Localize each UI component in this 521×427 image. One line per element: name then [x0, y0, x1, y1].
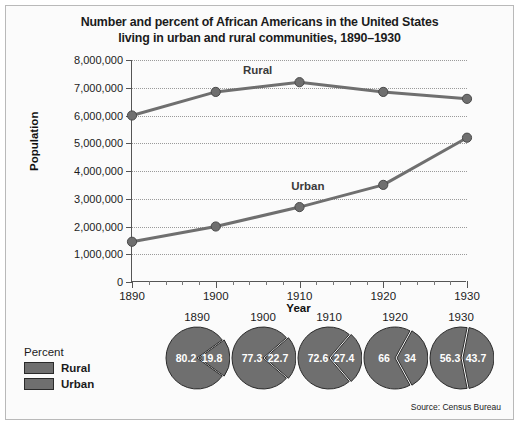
y-axis-tick-label: 5,000,000: [74, 137, 123, 149]
y-axis-tick-label: 2,000,000: [74, 221, 123, 233]
data-point-rural: [295, 78, 304, 87]
data-point-urban: [295, 202, 304, 211]
x-axis-tick-label: 1910: [287, 290, 313, 302]
legend: Percent Rural Urban: [24, 346, 94, 394]
data-point-rural: [462, 94, 471, 103]
x-axis-tick-label: 1930: [454, 290, 480, 302]
x-axis-tick-major: [467, 281, 468, 288]
pie-year-label: 1930: [415, 311, 507, 323]
figure-title-line2: living in urban and rural communities, 1…: [6, 30, 513, 46]
x-axis-tick-label: 1900: [203, 290, 229, 302]
x-axis-tick-label: 1890: [119, 290, 145, 302]
source-note: Source: Census Bureau: [411, 402, 501, 412]
legend-item-urban: Urban: [24, 378, 94, 390]
pie-chart-1930: 193056.343.7: [415, 311, 507, 391]
figure-title: Number and percent of African Americans …: [6, 14, 513, 46]
series-label-urban: Urban: [291, 180, 324, 192]
legend-swatch-urban: [24, 378, 54, 390]
y-axis-title: Population: [28, 112, 40, 171]
legend-swatch-rural: [24, 362, 54, 374]
pie-label-rural: 77.3: [242, 352, 262, 364]
y-axis-tick-label: 7,000,000: [74, 82, 123, 94]
data-point-rural: [211, 87, 220, 96]
legend-title: Percent: [24, 346, 94, 358]
figure-panel: Number and percent of African Americans …: [5, 5, 514, 420]
line-chart-plot-area: 01,000,0002,000,0003,000,0004,000,0005,0…: [131, 60, 466, 282]
x-axis-tick-major: [300, 281, 301, 288]
data-point-rural: [127, 111, 136, 120]
data-point-rural: [379, 87, 388, 96]
legend-label-rural: Rural: [61, 362, 90, 374]
series-label-rural: Rural: [243, 64, 272, 76]
pie-label-rural: 80.2: [176, 352, 196, 364]
x-axis-tick-major: [383, 281, 384, 288]
x-axis-tick-major: [132, 281, 133, 288]
y-axis-tick-label: 3,000,000: [74, 193, 123, 205]
x-axis-tick-label: 1920: [370, 290, 396, 302]
data-point-urban: [379, 180, 388, 189]
data-point-urban: [127, 237, 136, 246]
pie-label-rural: 66: [378, 352, 390, 364]
y-axis-tick-label: 4,000,000: [74, 165, 123, 177]
pie-label-urban: 43.7: [466, 352, 486, 364]
y-axis-tick-label: 0: [117, 276, 123, 288]
pie-graphic: 56.343.7: [428, 325, 494, 391]
x-axis-tick-major: [216, 281, 217, 288]
figure-title-line1: Number and percent of African Americans …: [6, 14, 513, 30]
y-axis-tick-label: 6,000,000: [74, 110, 123, 122]
pie-label-rural: 72.6: [308, 352, 328, 364]
data-point-urban: [211, 222, 220, 231]
legend-label-urban: Urban: [61, 378, 94, 390]
line-series-layer: [132, 60, 467, 282]
pie-label-rural: 56.3: [440, 352, 460, 364]
y-axis-tick-label: 1,000,000: [74, 248, 123, 260]
legend-item-rural: Rural: [24, 362, 94, 374]
y-axis-tick-label: 8,000,000: [74, 54, 123, 66]
data-point-urban: [462, 133, 471, 142]
